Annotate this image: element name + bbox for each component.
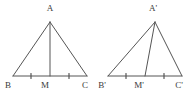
- geometry-figure: A B M C A' B' M' C': [0, 0, 192, 92]
- vertex-label-m-prime: M': [134, 80, 144, 90]
- vertex-label-c: C: [82, 80, 88, 90]
- vertex-label-b: B: [5, 80, 11, 90]
- vertex-label-b-prime: B': [98, 80, 106, 90]
- vertex-label-m: M: [41, 80, 49, 90]
- figure-canvas: A B M C A' B' M' C': [0, 0, 192, 92]
- vertex-label-c-prime: C': [175, 80, 183, 90]
- vertex-label-a-prime: A': [149, 3, 157, 13]
- vertex-label-a: A: [47, 3, 54, 13]
- figure-background: [0, 0, 192, 92]
